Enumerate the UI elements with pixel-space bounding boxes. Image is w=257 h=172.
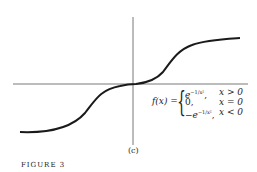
figure-caption: FIGURE 3 xyxy=(21,161,65,169)
panel-label: (c) xyxy=(128,146,139,155)
formula-lhs: f(x) = xyxy=(152,96,178,106)
